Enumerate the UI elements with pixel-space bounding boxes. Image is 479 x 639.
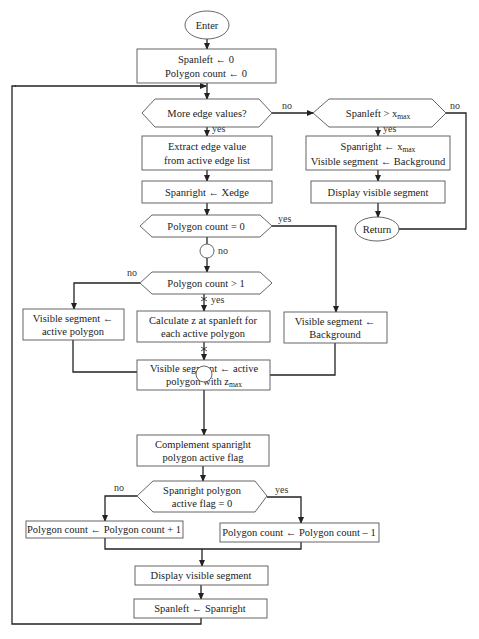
display-seg-box: Display visible segment (135, 566, 268, 585)
connector-circle (200, 244, 214, 258)
merge-circle (196, 366, 212, 382)
label-zero-no: no (218, 245, 228, 256)
complement-line-2: polygon active flag (162, 452, 244, 463)
return-text: Return (363, 224, 392, 235)
label-flag-no: no (114, 482, 124, 493)
label-gt1-no: no (127, 267, 137, 278)
vis-background-box: Visible segment ← Background (284, 312, 387, 343)
label-gt1-yes: yes (211, 294, 224, 305)
calc-z-line-2: each active polygon (161, 328, 246, 339)
label-more-no: no (282, 100, 292, 111)
vis-active-line-1: Visible segment ← (33, 313, 113, 324)
flag-zero-decision: Spanright polygon active flag = 0 (137, 481, 267, 512)
init-box: Spanleft ← 0 Polygon count ← 0 (137, 49, 276, 83)
complement-line-1: Complement spanright (155, 439, 251, 450)
extract-line-2: from active edge list (164, 155, 250, 166)
vis-active-line-2: active polygon (42, 326, 105, 337)
count-inc-box: Polygon count ← Polygon count + 1 (26, 521, 183, 538)
enter-terminal: Enter (185, 11, 229, 39)
display-seg-text: Display visible segment (151, 570, 252, 581)
complement-box: Complement spanright polygon active flag (137, 435, 269, 466)
calc-z-box: Calculate z at spanleft for each active … (137, 311, 270, 342)
return-terminal: Return (355, 217, 399, 241)
final-assign-box: Spanright ← xmax Visible segment ← Backg… (306, 136, 450, 170)
label-flag-yes: yes (275, 484, 288, 495)
polycount-zero-decision: Polygon count = 0 (140, 215, 272, 237)
spanright-xedge-text: Spanright ← Xedge (165, 187, 249, 198)
vis-background-line-2: Background (309, 329, 361, 340)
count-inc-text: Polygon count ← Polygon count + 1 (27, 524, 181, 535)
final-display-box: Display visible segment (311, 181, 445, 203)
init-line-1: Spanleft ← 0 (178, 54, 234, 65)
spanleft-spanright-box: Spanleft ← Spanright (134, 599, 267, 618)
final-display-text: Display visible segment (328, 187, 429, 198)
init-line-2: Polygon count ← 0 (165, 68, 247, 79)
spanleft-gt-xmax-decision: Spanleft > xmax (313, 99, 446, 127)
final-assign-line-2: Visible segment ← Background (311, 156, 446, 167)
flag-zero-line-2: active flag = 0 (172, 498, 232, 509)
vis-background-line-1: Visible segment ← (295, 316, 375, 327)
vis-active-box: Visible segment ← active polygon (23, 309, 124, 340)
spanleft-spanright-text: Spanleft ← Spanright (154, 603, 246, 614)
calc-z-line-1: Calculate z at spanleft for (149, 315, 257, 326)
flag-zero-line-1: Spanright polygon (163, 485, 242, 496)
spanright-xedge-box: Spanright ← Xedge (142, 181, 272, 203)
polycount-gt1-text: Polygon count > 1 (167, 278, 244, 289)
polycount-zero-text: Polygon count = 0 (167, 221, 244, 232)
enter-text: Enter (196, 20, 219, 31)
count-dec-box: Polygon count ← Polygon count – 1 (220, 523, 379, 542)
more-edges-text: More edge values? (167, 108, 247, 119)
more-edges-decision: More edge values? (142, 99, 272, 127)
extract-line-1: Extract edge value (168, 141, 246, 152)
label-xmax-no: no (450, 100, 460, 111)
polycount-gt1-decision: Polygon count > 1 (140, 272, 272, 294)
flowchart: no yes no yes yes no no yes no yes Enter… (0, 0, 479, 639)
extract-edge-box: Extract edge value from active edge list (142, 136, 272, 170)
count-dec-text: Polygon count ← Polygon count – 1 (222, 527, 375, 538)
label-zero-yes: yes (278, 213, 291, 224)
